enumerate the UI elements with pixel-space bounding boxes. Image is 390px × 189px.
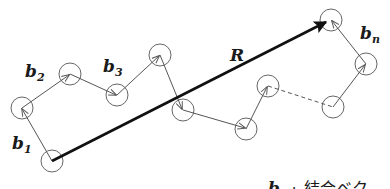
label-b3: b3 — [103, 56, 123, 79]
bond-vector-6 — [183, 110, 245, 128]
segment-circle-11 — [320, 9, 342, 31]
bond-vectors — [22, 21, 366, 161]
chain-diagram: b1 b2 b3 bn R bi:結合ベク — [0, 0, 390, 189]
bond-vector-b3 — [70, 74, 116, 95]
caption: bi:結合ベク — [268, 178, 368, 189]
label-b2: b2 — [25, 61, 45, 84]
label-bn: bn — [360, 23, 380, 46]
label-b1: b1 — [12, 133, 32, 156]
bond-vector-4 — [117, 56, 159, 95]
label-R: R — [229, 45, 244, 65]
dashed-gap — [268, 86, 333, 107]
bond-vector-9 — [333, 65, 365, 107]
bond-vector-7 — [246, 87, 267, 129]
segment-circles — [11, 9, 377, 172]
